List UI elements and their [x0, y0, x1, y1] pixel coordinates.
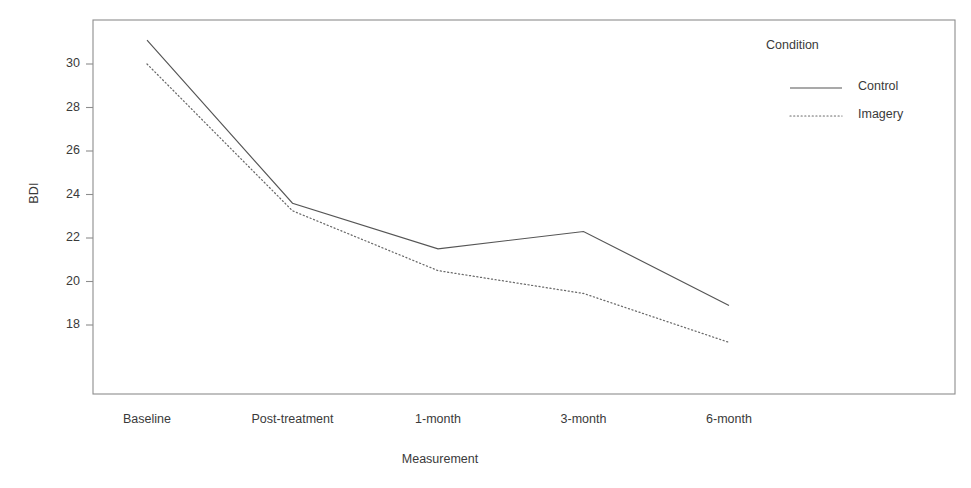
y-tick-label: 18 [50, 317, 80, 331]
legend-entry-label-imagery: Imagery [858, 107, 903, 121]
series-line-control [147, 40, 729, 305]
y-tick-label: 28 [50, 100, 80, 114]
plot-frame [93, 20, 955, 394]
legend-entry-label-control: Control [858, 79, 898, 93]
y-axis-title: BDI [27, 173, 41, 213]
series-line-imagery [147, 64, 729, 342]
y-tick-label: 20 [50, 274, 80, 288]
y-tick-label: 30 [50, 56, 80, 70]
y-tick-label: 22 [50, 230, 80, 244]
legend-title: Condition [766, 38, 819, 52]
y-tick-label: 26 [50, 143, 80, 157]
x-tick-label: 6-month [639, 412, 819, 426]
x-axis-title: Measurement [0, 452, 880, 466]
y-tick-label: 24 [50, 187, 80, 201]
chart-figure: BDI Measurement 30 28 26 24 22 20 18 Bas… [0, 0, 971, 488]
